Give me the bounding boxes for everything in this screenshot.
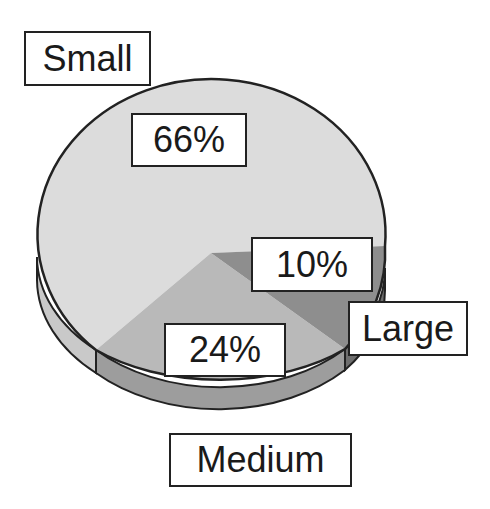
category-label-small: Small <box>24 31 151 86</box>
value-label-medium: 24% <box>164 323 286 377</box>
value-label-large: 10% <box>251 237 373 292</box>
category-label-large: Large <box>348 301 468 356</box>
category-label-medium: Medium <box>169 433 352 487</box>
value-label-small: 66% <box>131 113 247 167</box>
